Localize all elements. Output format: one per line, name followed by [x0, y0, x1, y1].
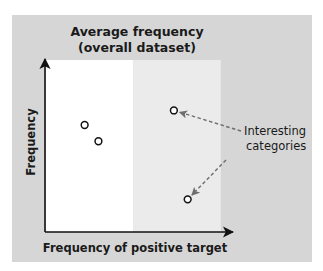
region-below-average — [46, 60, 133, 232]
scatter-diagram: Average frequency (overall dataset) Freq… — [0, 0, 323, 271]
annotation-line-1: Interesting — [244, 124, 306, 138]
y-axis-label: Frequency — [24, 108, 38, 176]
region-above-average — [133, 60, 220, 232]
chart-title-line-2: (overall dataset) — [78, 40, 196, 55]
annotation-line-2: categories — [246, 139, 306, 153]
x-axis-label: Frequency of positive target — [43, 241, 228, 255]
data-point-interesting — [184, 196, 191, 203]
data-point — [81, 122, 88, 129]
data-point — [95, 138, 102, 145]
chart-title-line-1: Average frequency — [70, 24, 203, 39]
plot-regions — [46, 60, 221, 232]
data-point-interesting — [170, 107, 177, 114]
